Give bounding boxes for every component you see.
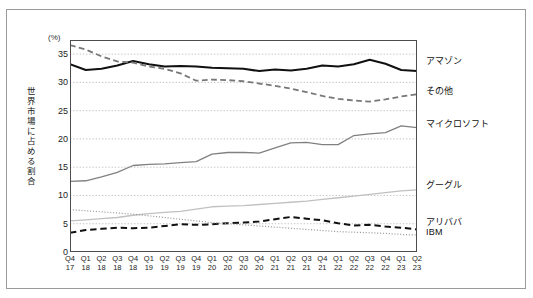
y-tick-35: 35 (42, 49, 68, 59)
y-axis-title: 世界市場に占める割合 (25, 86, 37, 186)
y-tick-labels: 05101520253035 (38, 40, 68, 252)
plot-border (70, 40, 417, 252)
y-tick-5: 5 (42, 219, 68, 229)
y-tick-25: 25 (42, 106, 68, 116)
legend-item-google: グーグル (426, 178, 462, 191)
x-tick-labels: Q417Q118Q218Q318Q418Q119Q219Q319Q419Q120… (70, 254, 417, 278)
cut-off-heading (8, 0, 308, 6)
plot-area (70, 40, 417, 252)
chart-screenshot: (%) 世界市場に占める割合 05101520253035 Q417Q118Q2… (0, 0, 533, 298)
y-tick-15: 15 (42, 162, 68, 172)
legend-item-amazon: アマゾン (426, 54, 462, 67)
legend-item-ibm: IBM (426, 227, 443, 237)
legend-item-microsoft: マイクロソフト (426, 117, 489, 130)
y-tick-10: 10 (42, 190, 68, 200)
y-tick-30: 30 (42, 77, 68, 87)
legend: アマゾンその他マイクロソフトグーグルアリババIBM (421, 0, 521, 298)
legend-item-others: その他 (426, 84, 453, 97)
y-tick-20: 20 (42, 134, 68, 144)
